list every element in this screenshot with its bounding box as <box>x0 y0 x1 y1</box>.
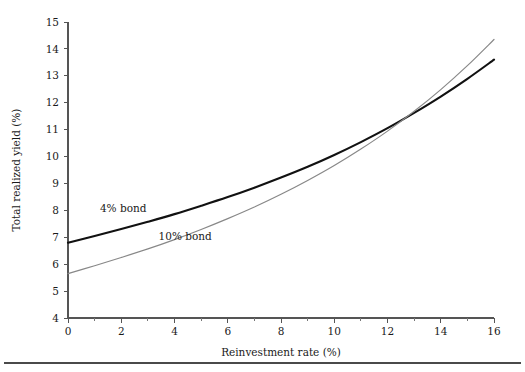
y-tick-label: 4 <box>52 312 59 324</box>
y-tick-label: 8 <box>52 204 59 216</box>
y-tick-label: 13 <box>46 69 59 81</box>
y-tick-label: 14 <box>46 43 60 55</box>
x-tick-label: 2 <box>118 325 125 337</box>
x-tick-label: 12 <box>381 325 394 337</box>
y-tick-label: 6 <box>52 258 59 270</box>
series-label-4-bond: 4% bond <box>100 202 147 214</box>
x-tick-label: 14 <box>434 325 448 337</box>
y-tick-label: 10 <box>46 150 59 162</box>
series-line-4-bond <box>68 60 494 243</box>
x-axis-ticks: 0246810121416 <box>65 318 501 337</box>
x-tick-label: 8 <box>278 325 285 337</box>
series-line-10-bond <box>68 39 494 273</box>
x-tick-label: 10 <box>328 325 341 337</box>
x-tick-label: 6 <box>224 325 231 337</box>
y-axis-title: Total realized yield (%) <box>10 109 22 232</box>
series-label-10-bond: 10% bond <box>159 230 212 242</box>
series-group <box>68 39 494 273</box>
y-tick-label: 12 <box>46 96 59 108</box>
y-tick-label: 11 <box>46 123 59 135</box>
y-tick-label: 9 <box>52 177 59 189</box>
y-tick-label: 15 <box>46 16 59 28</box>
x-tick-label: 0 <box>65 325 72 337</box>
chart-canvas: 456789101112131415 0246810121416 4% bond… <box>0 0 525 372</box>
x-axis-title: Reinvestment rate (%) <box>221 346 341 358</box>
x-tick-label: 4 <box>171 325 178 337</box>
axes-group <box>68 22 494 318</box>
x-tick-label: 16 <box>487 325 501 337</box>
y-axis-ticks: 456789101112131415 <box>46 16 68 324</box>
y-tick-label: 7 <box>52 231 59 243</box>
y-tick-label: 5 <box>52 285 59 297</box>
chart-figure: 456789101112131415 0246810121416 4% bond… <box>0 0 525 372</box>
